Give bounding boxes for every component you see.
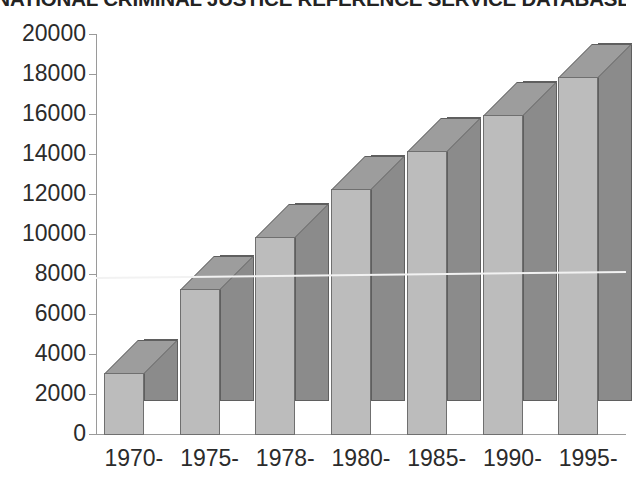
bar-side-face: [598, 43, 632, 401]
y-tick-label: 8000: [35, 262, 86, 285]
y-tick-label: 12000: [22, 182, 86, 205]
bar-side-face: [523, 81, 557, 401]
x-tick-label: 1975-: [166, 444, 254, 472]
y-tick: [89, 394, 96, 395]
bar-side-face: [295, 203, 329, 401]
y-tick-label: 14000: [22, 142, 86, 165]
y-tick-label: 6000: [35, 302, 86, 325]
bar: [407, 151, 447, 435]
y-tick: [89, 114, 96, 115]
y-tick: [89, 194, 96, 195]
y-tick-label: 16000: [22, 102, 86, 125]
x-tick-label: 1970-: [90, 444, 178, 472]
bar-front-face: [104, 373, 144, 435]
bar-side-face: [447, 117, 481, 401]
y-tick-label: 0: [73, 422, 86, 445]
bar: [104, 373, 144, 435]
y-tick-label: 18000: [22, 62, 86, 85]
y-tick: [89, 314, 96, 315]
x-tick-label: 1990-: [469, 444, 557, 472]
x-tick-label: 1985-: [393, 444, 481, 472]
y-tick: [89, 234, 96, 235]
bar-front-face: [483, 115, 523, 435]
bar: [180, 289, 220, 435]
x-axis-labels: 1970-1975-1978-1980-1985-1990-1995-: [96, 444, 626, 478]
bar-front-face: [558, 77, 598, 435]
x-tick-label: 1995-: [544, 444, 632, 472]
y-tick: [89, 274, 96, 275]
y-tick: [89, 434, 96, 435]
bar-series: [96, 34, 626, 435]
y-tick: [89, 74, 96, 75]
bar-side-face: [371, 155, 405, 401]
y-tick-label: 10000: [22, 222, 86, 245]
bar: [255, 237, 295, 435]
y-tick: [89, 354, 96, 355]
x-tick-label: 1980-: [317, 444, 405, 472]
bar: [558, 77, 598, 435]
y-tick: [89, 34, 96, 35]
bar: [331, 189, 371, 435]
bar-front-face: [407, 151, 447, 435]
bar: [483, 115, 523, 435]
y-tick-label: 20000: [22, 22, 86, 45]
bar-front-face: [331, 189, 371, 435]
y-tick: [89, 154, 96, 155]
bar-front-face: [180, 289, 220, 435]
y-tick-label: 4000: [35, 342, 86, 365]
x-tick-label: 1978-: [241, 444, 329, 472]
bar-front-face: [255, 237, 295, 435]
y-tick-label: 2000: [35, 382, 86, 405]
